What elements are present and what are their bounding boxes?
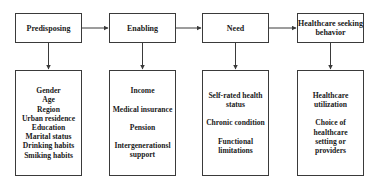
factors-enabling: Income Medical insurance Pension Interge…	[109, 70, 176, 176]
stage-label: Enabling	[127, 24, 158, 33]
factor-item: Marital status	[26, 132, 72, 141]
factor-item: Urban residence	[22, 114, 75, 123]
factor-item: Healthcare utilization	[307, 91, 355, 109]
factors-healthcare-seeking-behavior: Healthcare utilization Choice of healthc…	[297, 70, 364, 176]
factor-item: Intergenerationsl support	[113, 141, 173, 159]
factor-item: Income	[130, 86, 154, 95]
factor-item: Age	[42, 95, 55, 104]
factor-item: Chronic condition	[206, 118, 265, 127]
factor-item: Education	[32, 123, 65, 132]
stage-label: Need	[227, 24, 244, 33]
factor-item: Drinking habits	[23, 141, 74, 150]
factor-item: Functional limitations	[212, 137, 260, 155]
stage-need: Need	[202, 13, 269, 43]
factor-item: Choice of healthcare setting or provider…	[308, 118, 354, 155]
factor-item: Region	[37, 105, 60, 114]
stage-predisposing: Predisposing	[15, 13, 82, 43]
stage-label: Healthcare seeking behavior	[298, 19, 363, 37]
factor-item: Pension	[130, 123, 155, 132]
stage-healthcare-seeking-behavior: Healthcare seeking behavior	[297, 13, 364, 43]
factors-need: Self-rated health status Chronic conditi…	[202, 70, 269, 176]
factor-item: Smiking habits	[24, 151, 73, 160]
factors-predisposing: Gender Age Region Urban residence Educat…	[15, 70, 82, 176]
stage-label: Predisposing	[27, 24, 71, 33]
stage-enabling: Enabling	[109, 13, 176, 43]
factor-item: Self-rated health status	[208, 91, 264, 109]
factor-item: Gender	[36, 86, 60, 95]
factor-item: Medical insurance	[113, 105, 173, 114]
